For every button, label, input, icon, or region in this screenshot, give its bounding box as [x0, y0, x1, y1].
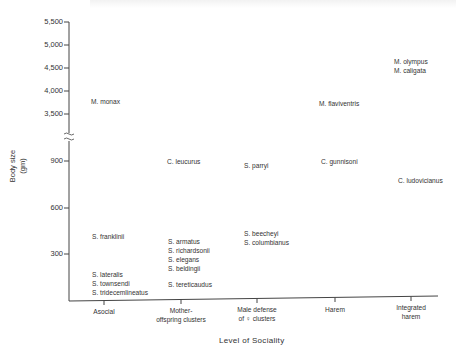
category-label: harem [371, 312, 451, 321]
species-label: M. flaviventris [319, 99, 359, 108]
category-label: Male defense [217, 305, 297, 314]
category-mother-offspring: Mother- offspring clusters [141, 306, 221, 324]
species-label: S. franklinii [92, 232, 124, 241]
y-axis-title-line2: (gm) [18, 136, 28, 196]
species-label: S. tereticaudus [168, 280, 212, 289]
y-tick-label: 900 [23, 156, 63, 165]
species-label: S. columbianus [244, 238, 289, 247]
species-label: M. olympus [394, 57, 428, 66]
category-label: offspring clusters [141, 315, 221, 324]
category-integrated-harem: Integrated harem [371, 303, 451, 321]
species-label: S. beecheyi [244, 229, 278, 238]
category-harem: Harem [295, 305, 375, 314]
y-tick-label: 5,000 [23, 40, 63, 49]
species-label: C. ludovicianus [398, 176, 443, 185]
species-label: S. elegans [168, 255, 199, 264]
species-label: S. parryi [244, 161, 269, 170]
species-label: S. lateralis [92, 270, 123, 279]
species-label: S. richardsonii [168, 246, 210, 255]
species-label: M. caligata [394, 66, 426, 75]
species-label: M. monax [91, 97, 120, 106]
axis-break-icon [64, 133, 74, 140]
y-tick-label: 300 [23, 249, 63, 258]
y-tick-label: 600 [23, 203, 63, 212]
category-label: Integrated [371, 303, 451, 312]
category-label: Asocial [64, 307, 144, 316]
category-label: of ♀ clusters [217, 314, 297, 323]
species-label: S. tridecemlineatus [92, 288, 148, 297]
y-tick-label: 3,500 [23, 109, 63, 118]
category-male-defense: Male defense of ♀ clusters [217, 305, 297, 323]
y-tick-label: 5,500 [23, 17, 63, 26]
category-label: Harem [295, 305, 375, 314]
species-label: C. leucurus [167, 157, 200, 166]
species-label: S. armatus [168, 237, 200, 246]
species-label: S. townsendi [92, 279, 130, 288]
species-label: S. beldingii [168, 264, 200, 273]
y-tick-label: 4,000 [23, 86, 63, 95]
y-axis-title: Body size (gm) [8, 136, 28, 196]
y-axis-title-line1: Body size [8, 136, 18, 196]
x-axis-title: Level of Sociality [219, 336, 284, 345]
y-tick-label: 4,500 [23, 63, 63, 72]
category-asocial: Asocial [64, 307, 144, 316]
species-label: C. gunnisoni [321, 157, 358, 166]
category-label: Mother- [141, 306, 221, 315]
x-ticks [104, 297, 411, 306]
